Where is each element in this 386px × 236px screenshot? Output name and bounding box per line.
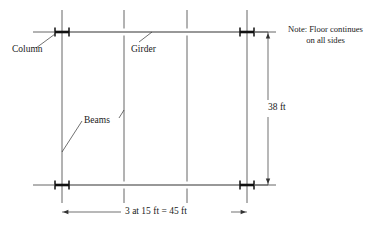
dim-arrow-right xyxy=(241,210,246,214)
beam-lines xyxy=(62,10,247,203)
note-line-1: Note: Floor continues xyxy=(288,24,363,35)
dim-arrow-up xyxy=(266,33,270,38)
note-block: Note: Floor continues on all sides xyxy=(288,24,363,45)
leader-girder xyxy=(139,32,152,42)
leader-beams-left xyxy=(62,121,82,152)
label-girder: Girder xyxy=(131,44,156,55)
label-horizontal-dimension: 3 at 15 ft = 45 ft xyxy=(122,206,190,217)
dim-arrow-down xyxy=(266,179,270,184)
figure-canvas: Column Girder Beams 38 ft 3 at 15 ft = 4… xyxy=(0,0,386,236)
label-beams: Beams xyxy=(84,115,110,126)
label-column: Column xyxy=(12,44,43,55)
label-vertical-dimension: 38 ft xyxy=(268,102,286,113)
dim-arrow-left xyxy=(63,210,68,214)
note-line-2: on all sides xyxy=(288,35,363,46)
leader-beams-right xyxy=(119,110,124,118)
